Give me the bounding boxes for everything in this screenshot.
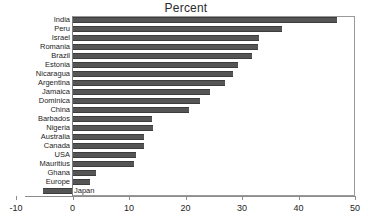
x-tick (242, 196, 243, 200)
bar-chart: Percent IndiaPeruIsraelRomaniaBrazilEsto… (0, 0, 372, 221)
bar-category-label: Barbados (38, 114, 70, 123)
bar (73, 26, 283, 32)
bar (73, 35, 259, 41)
bar (73, 152, 137, 158)
bar-category-label: Romania (40, 42, 70, 51)
x-tick (73, 196, 74, 200)
bar-rows: IndiaPeruIsraelRomaniaBrazilEstoniaNicar… (0, 16, 372, 196)
x-tick (186, 196, 187, 200)
x-tick (129, 196, 130, 200)
bar-category-label: China (50, 105, 70, 114)
bar (73, 53, 253, 59)
x-tick (16, 196, 17, 200)
bar-category-label: Dominica (39, 96, 70, 105)
x-tick-label: 50 (350, 203, 360, 213)
x-tick-label: 0 (70, 203, 75, 213)
chart-title: Percent (0, 1, 372, 15)
bar-category-label: Mauritius (40, 159, 70, 168)
bar-category-label: Japan (74, 186, 94, 195)
bar-category-label: Australia (41, 132, 70, 141)
bar-category-label: Canada (44, 141, 70, 150)
bar (73, 80, 226, 86)
x-tick-label: 20 (180, 203, 190, 213)
bar-category-label: Israel (52, 33, 70, 42)
bar-category-label: Peru (54, 24, 70, 33)
bar (73, 17, 337, 23)
bar (73, 161, 135, 167)
bar (73, 98, 200, 104)
x-tick-label: 30 (237, 203, 247, 213)
x-axis-line (25, 196, 355, 197)
bar (73, 116, 153, 122)
x-tick-label: 40 (293, 203, 303, 213)
bar (73, 179, 91, 185)
bar (73, 62, 239, 68)
bar (43, 188, 73, 194)
x-tick-label: -10 (9, 203, 22, 213)
bar (73, 89, 210, 95)
bar (73, 71, 233, 77)
x-tick (355, 196, 356, 200)
bar-row: Japan (0, 187, 372, 196)
bar-category-label: India (54, 15, 70, 24)
bar-category-label: Ghana (47, 168, 70, 177)
bar-category-label: Europe (46, 177, 70, 186)
bar-category-label: Nicaragua (36, 69, 70, 78)
bar (73, 134, 145, 140)
bar-category-label: Argentina (38, 78, 70, 87)
bar-category-label: USA (55, 150, 70, 159)
x-tick-label: 10 (124, 203, 134, 213)
bar (73, 143, 145, 149)
bar (73, 170, 97, 176)
bar (73, 107, 189, 113)
x-tick (299, 196, 300, 200)
bar-category-label: Nigeria (46, 123, 70, 132)
bar-category-label: Estonia (45, 60, 70, 69)
bar-category-label: Brazil (51, 51, 70, 60)
bar (73, 125, 154, 131)
bar (73, 44, 258, 50)
bar-row: Europe (0, 178, 372, 187)
bar-category-label: Jamaica (42, 87, 70, 96)
